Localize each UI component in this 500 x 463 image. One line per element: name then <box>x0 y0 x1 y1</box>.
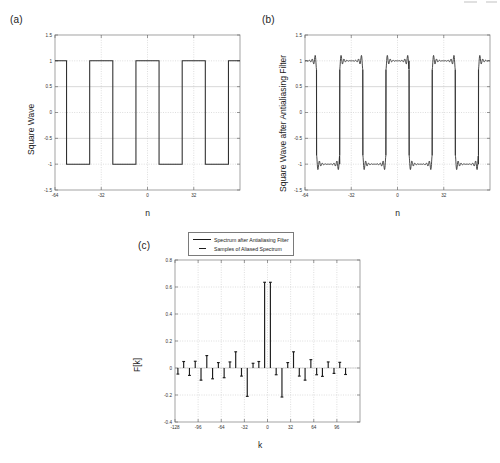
panel-c-plot: -128-96-64-320326496-0.4-0.200.20.40.60.… <box>120 232 390 463</box>
svg-text:-32: -32 <box>241 425 248 430</box>
panel-c: (c) Spectrum after Antialiasing Filter S… <box>120 232 390 463</box>
svg-text:-0.2: -0.2 <box>164 393 172 398</box>
svg-text:0: 0 <box>146 193 149 198</box>
panel-c-ylabel: F[k] <box>132 358 142 372</box>
svg-text:-128: -128 <box>170 425 180 430</box>
svg-text:-64: -64 <box>52 193 59 198</box>
svg-text:1: 1 <box>299 59 302 64</box>
svg-text:0.5: 0.5 <box>46 84 53 89</box>
svg-text:64: 64 <box>311 425 317 430</box>
figure-container: (a) Square Wave n -64-32032-1.5-1-0.500.… <box>0 0 500 463</box>
svg-text:-64: -64 <box>302 193 309 198</box>
svg-text:1: 1 <box>49 59 52 64</box>
svg-text:0.5: 0.5 <box>296 84 303 89</box>
legend-item-aliased-samples: Samples of Aliased Spectrum <box>192 244 289 253</box>
legend-item-spectrum-filter: Spectrum after Antialiasing Filter <box>192 235 289 244</box>
svg-text:0.6: 0.6 <box>166 285 173 290</box>
legend-label-aliased-samples: Samples of Aliased Spectrum <box>212 246 282 252</box>
svg-text:-1.5: -1.5 <box>294 188 302 193</box>
svg-text:0: 0 <box>49 110 52 115</box>
svg-text:32: 32 <box>441 193 447 198</box>
panel-a-ylabel: Square Wave <box>26 104 36 155</box>
svg-text:32: 32 <box>191 193 197 198</box>
svg-text:1.5: 1.5 <box>46 33 53 38</box>
svg-text:32: 32 <box>288 425 294 430</box>
svg-text:0.4: 0.4 <box>166 312 173 317</box>
svg-text:-32: -32 <box>348 193 355 198</box>
svg-text:0.8: 0.8 <box>166 258 173 263</box>
legend: Spectrum after Antialiasing Filter Sampl… <box>188 232 294 256</box>
svg-text:-64: -64 <box>218 425 225 430</box>
svg-text:-0.5: -0.5 <box>44 136 52 141</box>
svg-text:-32: -32 <box>98 193 105 198</box>
panel-b-label: (b) <box>262 14 275 25</box>
svg-text:-1: -1 <box>298 162 303 167</box>
svg-text:0: 0 <box>169 366 172 371</box>
panel-a-label: (a) <box>10 14 23 25</box>
legend-key-solid-line <box>192 235 212 244</box>
panel-b: (b) Square Wave after Antialiasing Filte… <box>250 0 500 232</box>
panel-b-xlabel: n <box>305 208 490 218</box>
panel-a-xlabel: n <box>55 208 240 218</box>
panel-a: (a) Square Wave n -64-32032-1.5-1-0.500.… <box>0 0 250 232</box>
svg-text:0: 0 <box>266 425 269 430</box>
svg-text:0: 0 <box>396 193 399 198</box>
svg-text:-1: -1 <box>48 162 53 167</box>
svg-text:-1.5: -1.5 <box>44 188 52 193</box>
panel-c-xlabel: k <box>160 440 360 450</box>
svg-text:1.5: 1.5 <box>296 33 303 38</box>
svg-text:0.2: 0.2 <box>166 339 173 344</box>
legend-key-dash-marker <box>192 244 212 253</box>
panel-a-plot: -64-32032-1.5-1-0.500.511.5 <box>0 0 250 232</box>
panel-b-ylabel: Square Wave after Antialiasing Filter <box>278 55 288 192</box>
panel-c-label: (c) <box>138 240 150 251</box>
svg-text:-0.4: -0.4 <box>164 420 172 425</box>
svg-text:96: 96 <box>334 425 340 430</box>
svg-text:0: 0 <box>299 110 302 115</box>
legend-label-spectrum-filter: Spectrum after Antialiasing Filter <box>212 237 289 243</box>
svg-text:-0.5: -0.5 <box>294 136 302 141</box>
svg-text:-96: -96 <box>195 425 202 430</box>
